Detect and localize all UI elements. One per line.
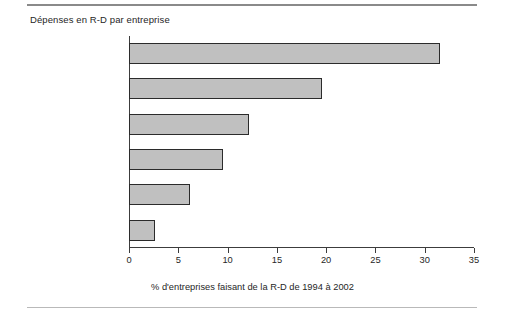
x-tick [277, 248, 278, 253]
x-tick [326, 248, 327, 253]
top-divider [27, 4, 477, 6]
x-tick-label: 35 [459, 255, 489, 265]
x-tick-label: 25 [360, 255, 390, 265]
bar-500000-a-999999 [129, 114, 249, 135]
bar-row: 10 000 000 $ ou plus [129, 36, 474, 71]
x-tick-label: 5 [163, 255, 193, 265]
x-tick-label: 15 [262, 255, 292, 265]
x-tick [425, 248, 426, 253]
x-tick-label: 0 [114, 255, 144, 265]
x-tick [228, 248, 229, 253]
x-tick-label: 10 [213, 255, 243, 265]
bar-row: 500 000 $ à 999 999 $ [129, 107, 474, 142]
bar-10000000-ou-plus [129, 43, 440, 64]
x-tick [178, 248, 179, 253]
bar-moins-de-100000 [129, 220, 155, 241]
bar-1000000-a-9999999 [129, 78, 322, 99]
chart-figure: Dépenses en R-D par entreprise 10 000 00… [0, 0, 505, 314]
plot-area: 10 000 000 $ ou plus 1 000 000 $ à 9 999… [129, 36, 474, 248]
x-tick-label: 20 [311, 255, 341, 265]
chart-title: Dépenses en R-D par entreprise [30, 14, 170, 25]
bar-200000-a-499999 [129, 149, 223, 170]
bar-row: 200 000 $ à 499 999 $ [129, 142, 474, 177]
x-tick-label: 30 [410, 255, 440, 265]
x-tick [474, 248, 475, 253]
x-tick [129, 248, 130, 253]
x-axis-title: % d'entreprises faisant de la R-D de 199… [0, 282, 505, 292]
bar-row: 100 000 $ à 199 999 $ [129, 177, 474, 212]
bar-100000-a-199999 [129, 184, 190, 205]
bar-row: Moins de 100 000 $ [129, 213, 474, 248]
bottom-divider [27, 307, 477, 308]
x-tick [375, 248, 376, 253]
bar-row: 1 000 000 $ à 9 999 999 $ [129, 71, 474, 106]
